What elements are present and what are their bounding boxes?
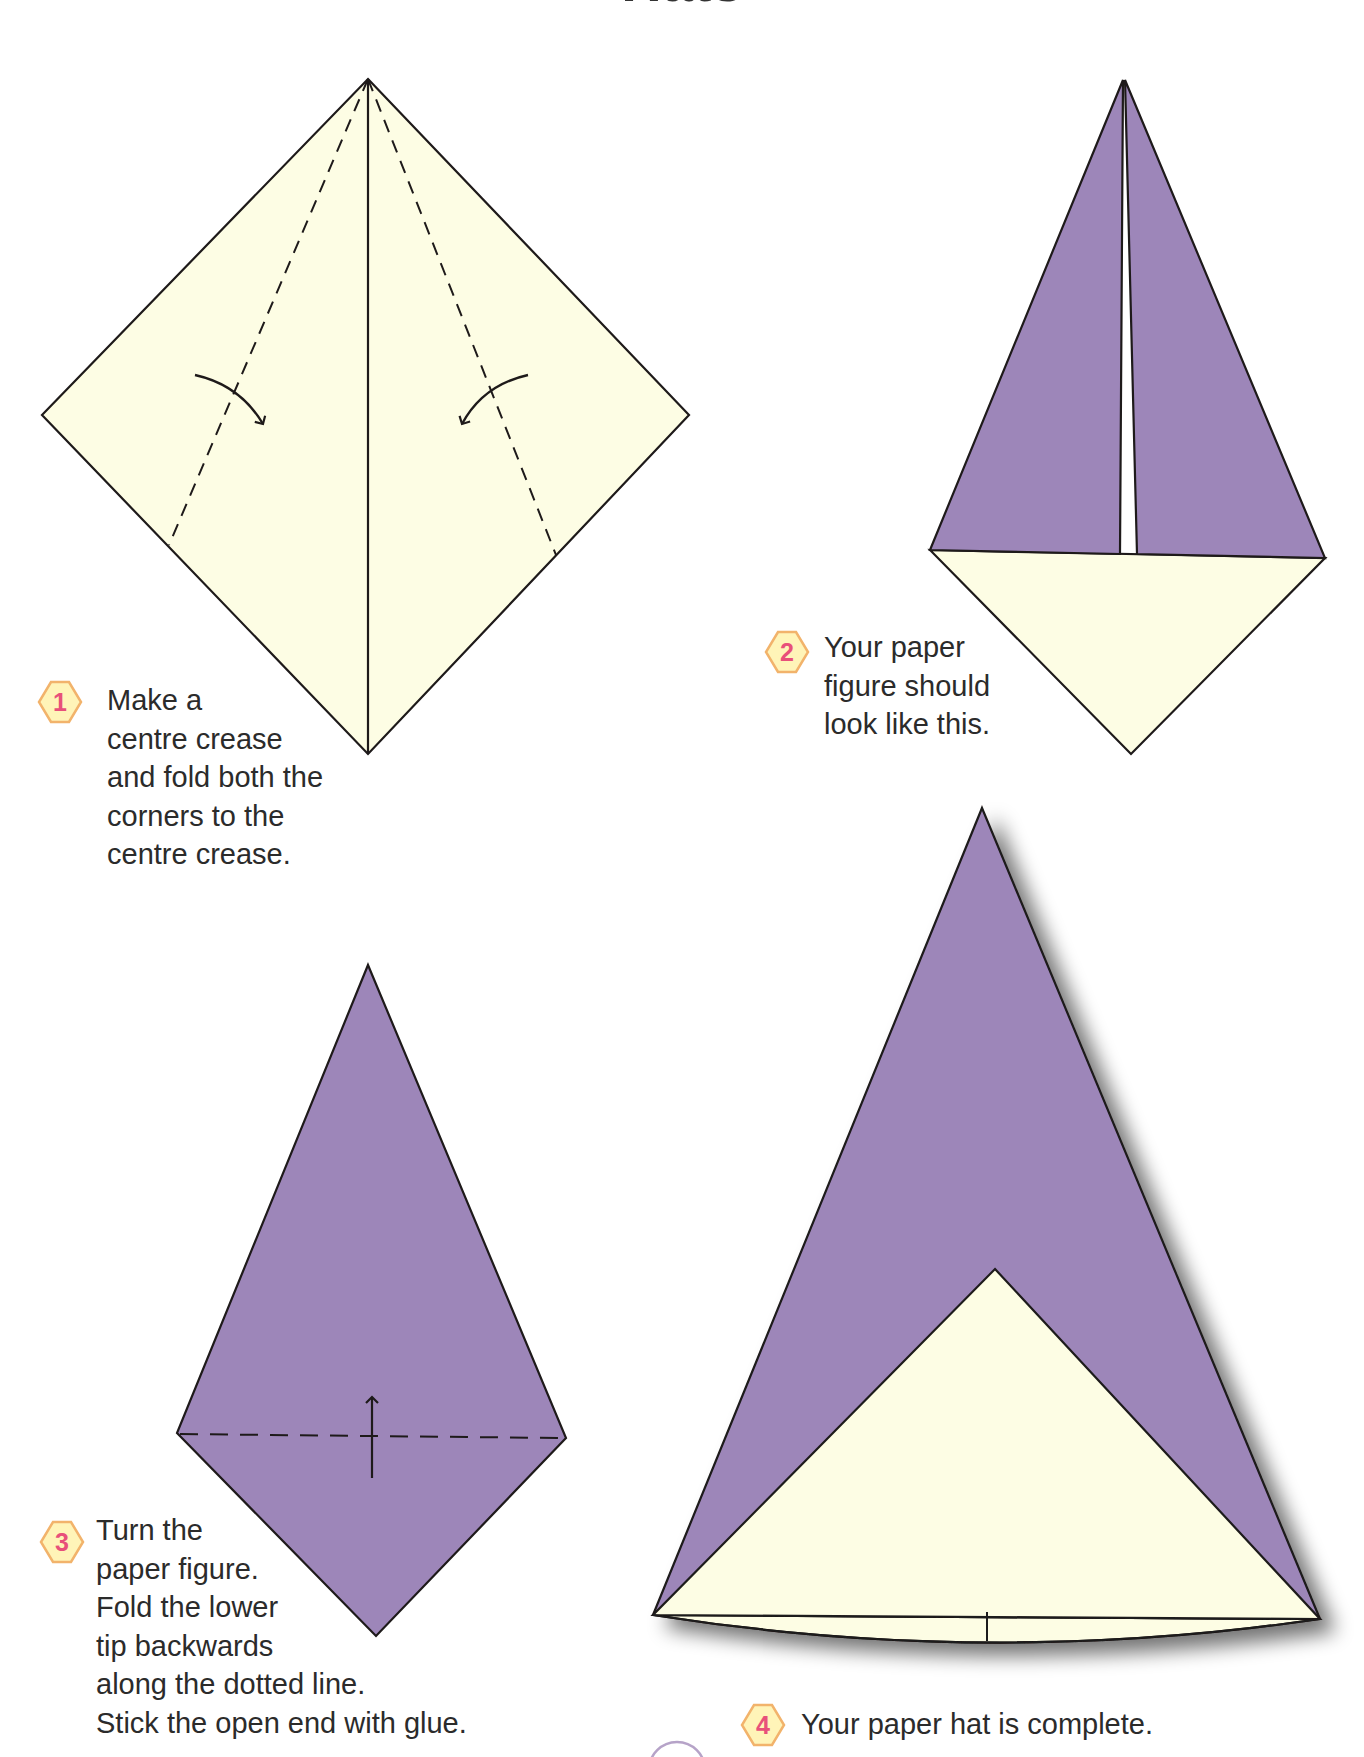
step-2-badge: 2 <box>764 629 810 675</box>
step-1-line: centre crease. <box>107 835 323 874</box>
step-2-line: look like this. <box>824 705 990 744</box>
step-4-line: Your paper hat is complete. <box>801 1705 1153 1744</box>
step-2-instructions: Your paper figure should look like this. <box>824 628 990 744</box>
step-1-line: Make a <box>107 681 323 720</box>
step-3-line: paper figure. <box>96 1550 467 1589</box>
step-2-number: 2 <box>764 629 810 675</box>
page-decoration-circle <box>649 1742 705 1757</box>
step-1-line: centre crease <box>107 720 323 759</box>
step-2-line: Your paper <box>824 628 990 667</box>
step-1-instructions: Make a centre crease and fold both the c… <box>107 681 323 874</box>
step-4-badge: 4 <box>740 1702 786 1748</box>
step-4-diagram <box>653 808 1320 1643</box>
step-1-line: corners to the <box>107 797 323 836</box>
step-1-badge: 1 <box>37 679 83 725</box>
diagrams-canvas <box>0 0 1364 1757</box>
step-3-number: 3 <box>39 1519 85 1565</box>
paper-square <box>42 79 689 754</box>
step-2-line: figure should <box>824 667 990 706</box>
step-4-instructions: Your paper hat is complete. <box>801 1705 1153 1744</box>
step-1-number: 1 <box>37 679 83 725</box>
step-1-line: and fold both the <box>107 758 323 797</box>
step-3-badge: 3 <box>39 1519 85 1565</box>
step-3-line: Stick the open end with glue. <box>96 1704 467 1743</box>
step-3-line: Turn the <box>96 1511 467 1550</box>
step-4-number: 4 <box>740 1702 786 1748</box>
step-3-line: along the dotted line. <box>96 1665 467 1704</box>
step-3-instructions: Turn the paper figure. Fold the lower ti… <box>96 1511 467 1742</box>
paper-right-flap <box>1125 80 1325 558</box>
paper-left-flap <box>930 80 1123 554</box>
step-1-diagram <box>42 79 689 754</box>
step-3-line: Fold the lower <box>96 1588 467 1627</box>
step-3-line: tip backwards <box>96 1627 467 1666</box>
